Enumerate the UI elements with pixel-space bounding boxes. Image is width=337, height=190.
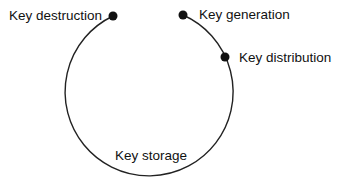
node-dot-destruction — [109, 12, 118, 21]
label-key-distribution: Key distribution — [239, 51, 331, 65]
node-dot-generation — [179, 11, 188, 20]
label-key-generation: Key generation — [199, 8, 290, 22]
label-key-storage: Key storage — [115, 149, 187, 163]
label-key-destruction: Key destruction — [9, 9, 102, 23]
node-dot-distribution — [221, 53, 230, 62]
